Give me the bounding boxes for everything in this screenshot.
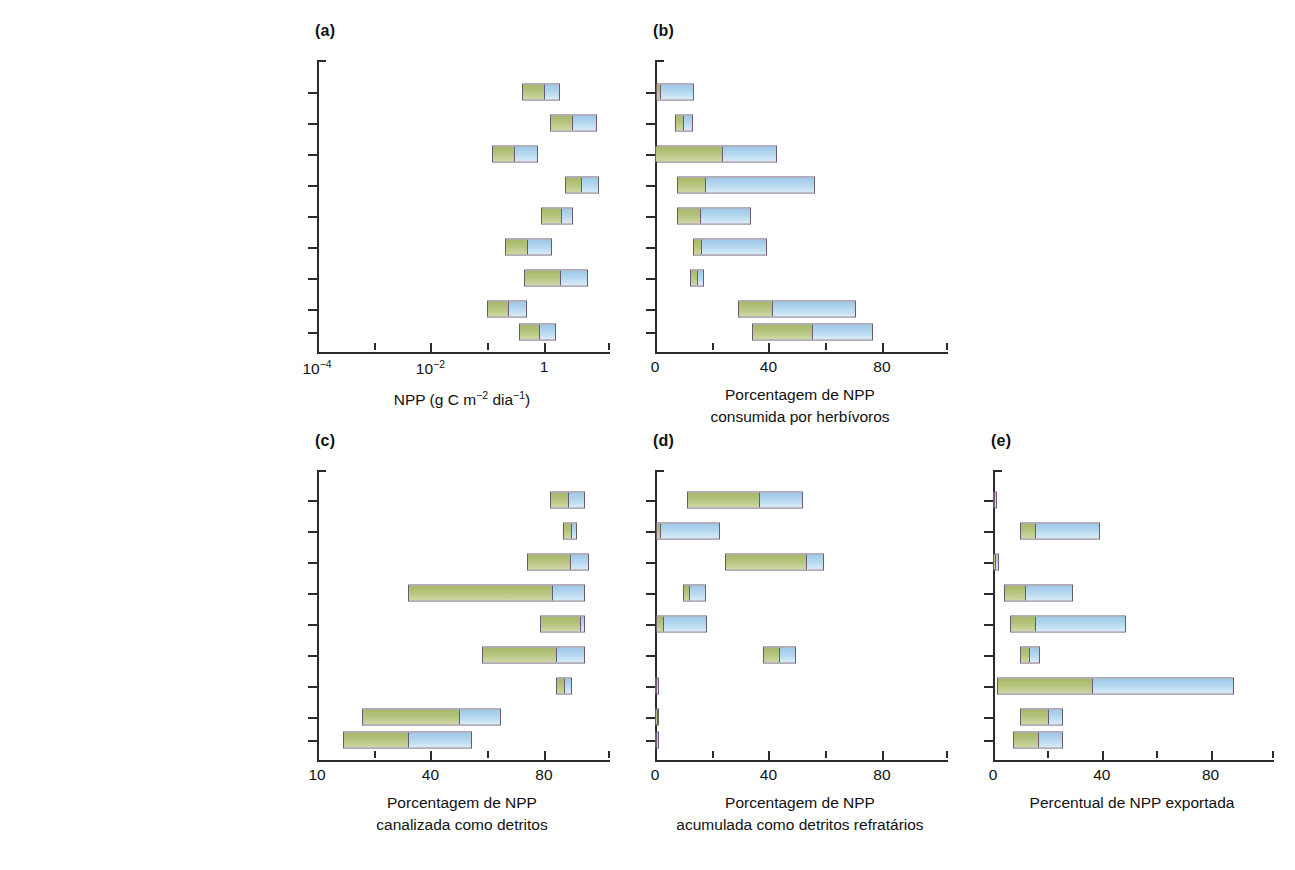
x-tick-label-e-4: 80 bbox=[1202, 766, 1219, 784]
bar-e-3 bbox=[1004, 585, 1072, 602]
figure-npp-panels: Florestas e matagaisManguezaisPradosPânt… bbox=[0, 0, 1295, 870]
y-tick-e-0 bbox=[984, 500, 993, 502]
y-tick-e-4 bbox=[984, 624, 993, 626]
bar-segment-low-e-1 bbox=[1021, 524, 1036, 539]
bar-e-2 bbox=[993, 554, 999, 571]
y-tick-e-6 bbox=[984, 686, 993, 688]
x-tick-e-4 bbox=[1211, 751, 1213, 760]
bar-segment-high-e-3 bbox=[1025, 586, 1071, 601]
y-tick-e-3 bbox=[984, 593, 993, 595]
bar-segment-high-e-5 bbox=[1029, 648, 1039, 663]
bar-e-1 bbox=[1020, 523, 1101, 540]
bar-e-5 bbox=[1020, 647, 1041, 664]
y-tick-e-2 bbox=[984, 562, 993, 564]
bar-segment-low-e-6 bbox=[998, 679, 1092, 694]
y-axis-cap-e bbox=[993, 470, 1002, 472]
bar-segment-high-e-4 bbox=[1035, 617, 1124, 632]
bar-segment-low-e-5 bbox=[1021, 648, 1030, 663]
bar-segment-high-e-0 bbox=[994, 493, 995, 508]
y-tick-e-7 bbox=[984, 717, 993, 719]
y-tick-e-5 bbox=[984, 655, 993, 657]
bar-segment-high-e-2 bbox=[995, 555, 998, 570]
y-axis-line-e bbox=[993, 470, 995, 760]
bar-segment-high-e-6 bbox=[1092, 679, 1233, 694]
bar-segment-low-e-8 bbox=[1014, 733, 1038, 748]
x-tick-e-5 bbox=[1272, 751, 1274, 758]
x-tick-label-e-0: 0 bbox=[989, 766, 998, 784]
bar-segment-low-e-4 bbox=[1011, 617, 1036, 632]
bar-segment-low-e-7 bbox=[1021, 710, 1049, 725]
bar-segment-high-e-8 bbox=[1038, 733, 1062, 748]
x-axis-title-e: Percentual de NPP exportada bbox=[1030, 792, 1235, 814]
bar-e-0 bbox=[993, 492, 997, 509]
x-tick-e-2 bbox=[1102, 751, 1104, 760]
bar-e-6 bbox=[997, 678, 1234, 695]
bar-segment-low-e-3 bbox=[1005, 586, 1025, 601]
y-tick-e-8 bbox=[984, 740, 993, 742]
x-tick-e-0 bbox=[993, 751, 995, 760]
y-tick-e-1 bbox=[984, 531, 993, 533]
bar-segment-high-e-7 bbox=[1048, 710, 1061, 725]
x-tick-e-1 bbox=[1047, 751, 1049, 758]
x-tick-label-e-2: 40 bbox=[1093, 766, 1110, 784]
bar-e-7 bbox=[1020, 709, 1063, 726]
bar-e-4 bbox=[1010, 616, 1126, 633]
x-axis-line-e bbox=[993, 760, 1274, 762]
x-tick-e-3 bbox=[1156, 751, 1158, 758]
bar-e-8 bbox=[1013, 732, 1063, 749]
panel-e: (e)04080Percentual de NPP exportada bbox=[0, 0, 1295, 870]
bar-segment-high-e-1 bbox=[1035, 524, 1099, 539]
panel-tag-e: (e) bbox=[991, 432, 1011, 450]
